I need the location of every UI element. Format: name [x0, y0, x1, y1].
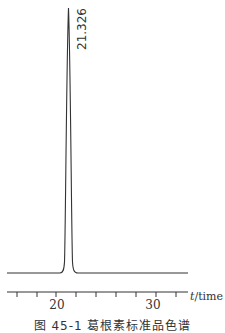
tick-label-30: 30	[145, 298, 160, 312]
x-axis-label: t/time	[190, 290, 223, 303]
figure-caption: 图 45-1 葛根素标准品色谱	[0, 316, 225, 333]
peak-label: 21.326	[75, 8, 89, 50]
tick-label-20: 20	[49, 298, 64, 312]
x-axis-ticks	[17, 292, 176, 297]
chromatogram-trace	[7, 8, 188, 273]
